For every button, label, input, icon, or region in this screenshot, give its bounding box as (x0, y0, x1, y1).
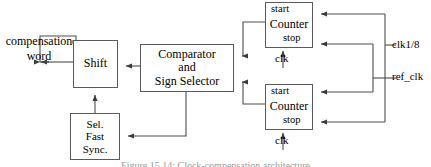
label-compensation-word-line1: compensation (2, 34, 76, 49)
wire-counter-top-to-comparator (242, 22, 265, 56)
block-sel-fast-sync[interactable]: Sel. Fast Sync. (70, 113, 120, 160)
block-counter-top-label: Counter (270, 18, 309, 31)
port-label-stop-bottom: stop (283, 114, 301, 125)
wire-counter-bottom-to-comparator (242, 82, 265, 104)
block-sel-fast-sync-line3: Sync. (83, 143, 108, 155)
clock-compensation-block-diagram: Shift Sel. Fast Sync. Comparator and Sig… (0, 0, 431, 167)
block-comparator-and-sign-selector[interactable]: Comparator and Sign Selector (140, 44, 234, 92)
block-sel-fast-sync-line1: Sel. (87, 118, 104, 130)
label-compensation-word: compensation word (2, 34, 76, 63)
signal-label-ref-clk: ref_clk (392, 70, 423, 82)
block-comparator-line1: Comparator (158, 48, 215, 61)
block-comparator-line3: Sign Selector (155, 75, 219, 88)
port-label-stop-top: stop (283, 32, 301, 43)
block-counter-bottom-label: Counter (270, 100, 309, 113)
signal-label-clk-top: clk (275, 52, 288, 64)
signal-label-clk-bottom: clk (275, 134, 288, 146)
port-label-start-bottom: start (271, 85, 289, 96)
block-shift-label: Shift (84, 57, 107, 70)
block-comparator-line2: and (178, 61, 195, 74)
label-compensation-word-line2: word (2, 49, 76, 64)
wire-comparator-to-selfast (128, 92, 186, 136)
block-shift[interactable]: Shift (73, 40, 118, 88)
block-sel-fast-sync-line2: Fast (86, 130, 104, 142)
port-label-start-top: start (271, 3, 289, 14)
signal-label-clk-div8: clk1/8 (392, 38, 420, 50)
figure-caption: Figure 15.14: Clock-compensation archite… (0, 160, 431, 167)
